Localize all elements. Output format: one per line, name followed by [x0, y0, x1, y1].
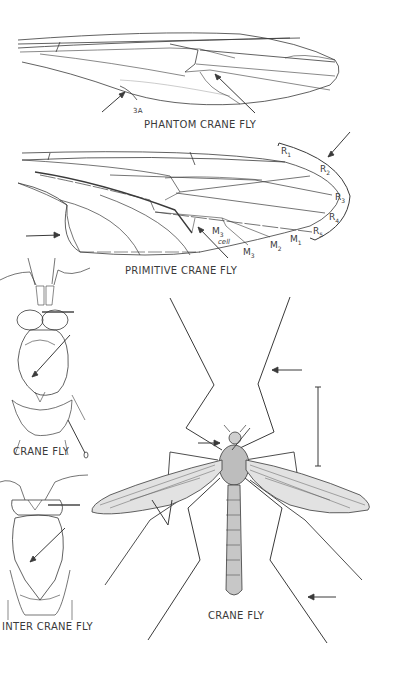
crane-fly-thorax-drawing	[0, 258, 90, 458]
vein-label-cell: cell	[218, 238, 230, 246]
field-guide-figure: 3A PHANTOM CRANE FLY R1 R2 R3 R4 R5 M1 M…	[0, 0, 393, 675]
vein-label-m1: M1	[290, 234, 302, 246]
winter-crane-fly-thorax-drawing	[0, 475, 88, 620]
caption-crane-fly-full: CRANE FLY	[208, 610, 264, 621]
vein-label-m3-cell: M3	[212, 226, 224, 238]
vein-label-r2: R2	[320, 164, 330, 176]
illustration-svg	[0, 0, 393, 675]
crane-fly-body-drawing	[92, 297, 370, 643]
vein-label-r5: R5	[313, 226, 323, 238]
vein-label-r3: R3	[335, 192, 345, 204]
caption-phantom-crane-fly: PHANTOM CRANE FLY	[144, 119, 256, 130]
vein-label-m2: M2	[270, 240, 282, 252]
vein-label-r4: R4	[329, 212, 339, 224]
caption-crane-fly-thorax: CRANE FLY	[13, 446, 69, 457]
vein-label-m3: M3	[243, 247, 255, 259]
caption-primitive-crane-fly: PRIMITIVE CRANE FLY	[125, 265, 237, 276]
phantom-wing-drawing	[18, 33, 339, 113]
vein-label-r1: R1	[281, 146, 291, 158]
caption-winter-crane-fly: INTER CRANE FLY	[2, 621, 93, 632]
vein-label-3a: 3A	[133, 107, 143, 115]
